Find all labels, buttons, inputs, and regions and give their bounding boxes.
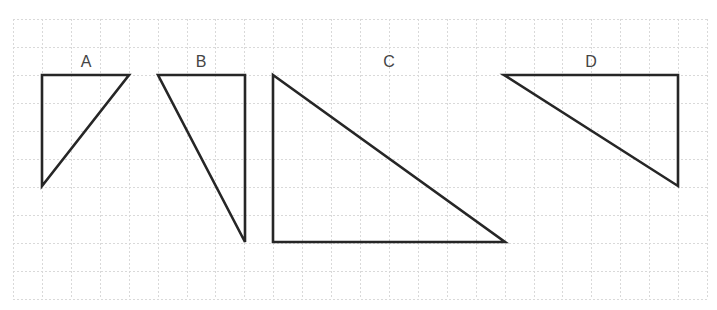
triangle-c-label: C <box>383 53 395 70</box>
triangle-a: A <box>42 53 129 186</box>
triangle-grid-diagram: A B C D <box>0 0 717 310</box>
triangle-b-label: B <box>196 53 207 70</box>
triangle-a-shape <box>42 75 129 186</box>
triangle-b-shape <box>158 75 245 242</box>
triangle-a-label: A <box>81 53 92 70</box>
triangle-b: B <box>158 53 245 242</box>
triangle-d-label: D <box>585 53 597 70</box>
graph-paper-grid <box>13 19 708 300</box>
